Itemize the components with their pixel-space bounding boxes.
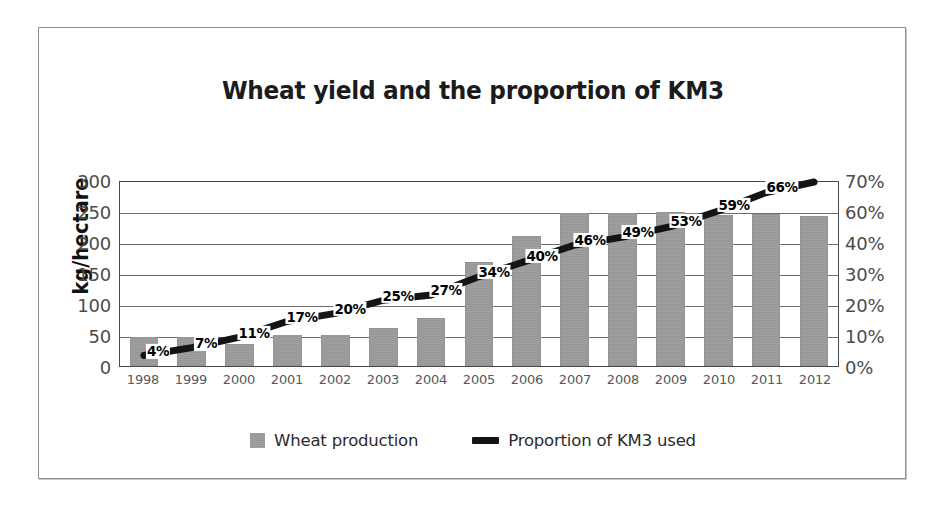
y-axis-right-tick-label: 30% [845, 264, 884, 285]
x-axis-tick-label: 1998 [119, 372, 167, 387]
data-label: 40% [525, 249, 558, 263]
bar [656, 212, 685, 366]
bar [321, 335, 350, 366]
data-label: 53% [669, 214, 702, 228]
y-axis-left-tick-label: 200 [77, 233, 111, 254]
x-axis-tick-label: 2006 [503, 372, 551, 387]
y-axis-left-tick-label: 100 [77, 295, 111, 316]
data-label: 17% [285, 310, 318, 324]
bar-slot [264, 182, 312, 366]
bar-slot [551, 182, 599, 366]
bar [752, 214, 781, 366]
bar-slot [646, 182, 694, 366]
y-axis-right-tick-label: 20% [845, 295, 884, 316]
x-axis-tick-label: 2009 [647, 372, 695, 387]
x-axis-tick-label: 2003 [359, 372, 407, 387]
chart-frame: Wheat yield and the proportion of KM3 kg… [38, 27, 906, 479]
bar-slot [311, 182, 359, 366]
legend-item-label: Wheat production [274, 431, 418, 450]
y-axis-right-tick-label: 60% [845, 202, 884, 223]
data-label: 27% [429, 283, 462, 297]
bar-slot [359, 182, 407, 366]
y-axis-left-tick-label: 50 [88, 326, 111, 347]
y-axis-left-tick-label: 0 [100, 357, 111, 378]
data-label: 59% [717, 198, 750, 212]
plot-area: 4%7%11%17%20%25%27%34%40%46%49%53%59%66% [119, 181, 839, 367]
data-label: 20% [333, 302, 366, 316]
gridline [120, 368, 838, 369]
x-axis-tick-label: 2005 [455, 372, 503, 387]
bar [704, 215, 733, 366]
bar-slot [599, 182, 647, 366]
bar [273, 335, 302, 366]
data-label: 49% [621, 225, 654, 239]
square-swatch-icon [250, 433, 265, 448]
x-axis-tick-label: 2008 [599, 372, 647, 387]
x-axis-tick-label: 2012 [791, 372, 839, 387]
y-axis-right-ticks: 0%10%20%30%40%60%70% [845, 181, 905, 367]
legend-item-label: Proportion of KM3 used [508, 431, 696, 450]
data-label: 25% [381, 288, 414, 302]
bar [369, 328, 398, 366]
data-label: 66% [765, 180, 798, 194]
data-label: 46% [573, 233, 606, 247]
data-label: 11% [237, 326, 270, 340]
x-axis-tick-label: 2007 [551, 372, 599, 387]
data-label: 4% [146, 344, 170, 358]
bar-slot [790, 182, 838, 366]
y-axis-left-ticks: 050100150200250300 [39, 181, 111, 367]
bar-slot [407, 182, 455, 366]
bar [225, 344, 254, 366]
y-axis-left-tick-label: 250 [77, 202, 111, 223]
y-axis-right-tick-label: 70% [845, 171, 884, 192]
legend-item-proportion-km3: Proportion of KM3 used [472, 431, 696, 450]
line-swatch-icon [472, 437, 499, 444]
y-axis-right-tick-label: 10% [845, 326, 884, 347]
x-axis-tick-label: 2010 [695, 372, 743, 387]
legend-item-wheat-production: Wheat production [250, 431, 418, 450]
x-axis-tick-label: 1999 [167, 372, 215, 387]
y-axis-right-tick-label: 0% [845, 357, 873, 378]
y-axis-left-tick-label: 150 [77, 264, 111, 285]
bar-slot [120, 182, 168, 366]
data-label: 34% [477, 265, 510, 279]
y-axis-right-tick-label: 40% [845, 233, 884, 254]
x-axis-tick-label: 2000 [215, 372, 263, 387]
page-title: Wheat yield and the proportion of KM3 [69, 76, 876, 105]
x-axis-tick-label: 2002 [311, 372, 359, 387]
x-axis-tick-label: 2004 [407, 372, 455, 387]
bar [800, 216, 829, 366]
legend: Wheat production Proportion of KM3 used [39, 431, 907, 450]
chart-page: Wheat yield and the proportion of KM3 kg… [0, 0, 942, 506]
bar [417, 318, 446, 366]
y-axis-left-tick-label: 300 [77, 171, 111, 192]
data-label: 7% [194, 336, 218, 350]
x-axis-tick-label: 2001 [263, 372, 311, 387]
x-axis-ticks: 1998199920002001200220032004200520062007… [119, 372, 839, 387]
x-axis-tick-label: 2011 [743, 372, 791, 387]
